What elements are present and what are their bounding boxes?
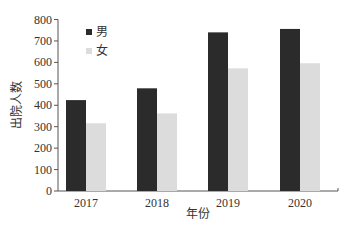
legend-label-1: 女	[96, 43, 108, 58]
x-axis-title: 年份	[186, 207, 210, 221]
x-tick-label: 2018	[145, 196, 169, 210]
x-tick-label: 2019	[216, 196, 240, 210]
bar-2020-1	[300, 63, 320, 191]
bar-2019-1	[228, 68, 248, 191]
y-tick-label: 200	[34, 141, 52, 155]
y-tick-label: 600	[34, 55, 52, 69]
bar-2018-1	[157, 113, 177, 191]
y-axis-title: 出院人数	[9, 81, 24, 129]
y-tick-label: 100	[34, 163, 52, 177]
y-tick-label: 500	[34, 77, 52, 91]
bar-2019-0	[208, 32, 228, 191]
y-tick-label: 700	[34, 34, 52, 48]
x-tick-label: 2020	[288, 196, 312, 210]
y-tick-label: 800	[34, 13, 52, 27]
bar-chart: 0100200300400500600700800201720182019202…	[0, 0, 352, 232]
y-tick-label: 300	[34, 120, 52, 134]
y-tick-label: 0	[46, 184, 52, 198]
y-tick-label: 400	[34, 98, 52, 112]
legend-swatch-1	[86, 48, 92, 54]
x-tick-label: 2017	[74, 196, 98, 210]
legend-label-0: 男	[96, 25, 108, 39]
bar-2017-1	[86, 123, 106, 191]
bar-2020-0	[280, 29, 300, 191]
bar-2018-0	[137, 88, 157, 191]
legend-swatch-0	[86, 29, 92, 35]
bar-2017-0	[66, 100, 86, 191]
